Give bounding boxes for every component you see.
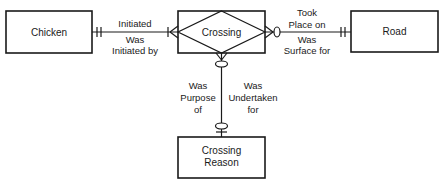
cardinality-zero-circle-icon	[216, 123, 228, 129]
rel-label-purpose: Purpose	[180, 92, 215, 103]
relationship-reason-crossing	[216, 53, 228, 137]
rel-label-surface-for: Surface for	[284, 45, 330, 56]
rel-label-was-2: Was	[298, 34, 317, 45]
entity-crossing-reason-label-line1: Crossing	[202, 145, 241, 156]
rel-label-undertaken: Undertaken	[228, 92, 277, 103]
rel-label-took: Took	[297, 7, 317, 18]
entity-crossing-reason-label-line2: Reason	[204, 157, 238, 168]
entity-chicken-label: Chicken	[31, 27, 67, 38]
entity-road-label: Road	[383, 26, 407, 37]
rel-label-was-4: Was	[244, 80, 263, 91]
cardinality-zero-circle-icon	[274, 27, 280, 37]
rel-label-of: of	[194, 104, 202, 115]
cardinality-zero-circle-icon	[216, 61, 228, 67]
rel-label-place-on: Place on	[289, 19, 326, 30]
rel-label-was: Was	[126, 34, 145, 45]
rel-label-initiated: Initiated	[118, 18, 151, 29]
rel-label-for: for	[247, 104, 258, 115]
rel-label-initiated-by: Initiated by	[112, 45, 158, 56]
er-diagram: Chicken Crossing Road Crossing Reason In…	[0, 0, 442, 185]
rel-label-was-3: Was	[189, 80, 208, 91]
entity-crossing-label: Crossing	[202, 27, 241, 38]
